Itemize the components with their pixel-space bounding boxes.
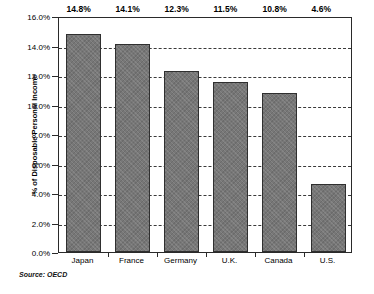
bar-item: 14.1% — [115, 16, 151, 252]
x-axis-tick-label: U.S. — [320, 256, 336, 265]
plot-area: 14.8%14.1%12.3%11.5%10.8%4.6% — [58, 17, 352, 253]
x-axis-tick-label: U.K. — [222, 256, 238, 265]
x-axis-labels: JapanFranceGermanyU.K.CanadaU.S. — [58, 256, 352, 272]
bar-item: 10.8% — [262, 16, 298, 252]
y-axis-tick-label: 6.0% — [2, 160, 50, 169]
y-axis-tick-label: 2.0% — [2, 219, 50, 228]
x-axis-tick-label: Canada — [264, 256, 292, 265]
bar-value-label: 12.3% — [165, 4, 189, 14]
y-axis-tick-label: 0.0% — [2, 249, 50, 258]
y-axis-tick-label: 4.0% — [2, 190, 50, 199]
bar-item: 11.5% — [213, 16, 249, 252]
bar: 4.6% — [311, 184, 347, 252]
bar-value-label: 4.6% — [312, 4, 331, 14]
bar: 14.1% — [115, 44, 151, 252]
bar-value-label: 14.8% — [67, 4, 91, 14]
y-axis-tick-label: 8.0% — [2, 131, 50, 140]
y-axis-tick-label: 10.0% — [2, 101, 50, 110]
bar: 14.8% — [66, 34, 102, 252]
source-note: Source: OECD — [19, 271, 67, 278]
y-axis-tick-mark — [52, 253, 58, 254]
bar: 12.3% — [164, 71, 200, 252]
bar: 11.5% — [213, 82, 249, 252]
y-axis-tick-label: 16.0% — [2, 13, 50, 22]
bar-value-label: 14.1% — [116, 4, 140, 14]
x-axis-tick-label: France — [119, 256, 144, 265]
y-axis-tick-label: 14.0% — [2, 42, 50, 51]
bar: 10.8% — [262, 93, 298, 252]
x-axis-tick-label: Germany — [164, 256, 197, 265]
bar-item: 4.6% — [311, 16, 347, 252]
bar-item: 12.3% — [164, 16, 200, 252]
bar-value-label: 10.8% — [263, 4, 287, 14]
bar-value-label: 11.5% — [214, 4, 238, 14]
bars-group: 14.8%14.1%12.3%11.5%10.8%4.6% — [59, 18, 351, 252]
x-axis-tick-label: Japan — [72, 256, 94, 265]
y-axis-tick-label: 12.0% — [2, 72, 50, 81]
bar-chart: % of Disposable Personal Income 0.0%2.0%… — [0, 0, 374, 294]
bar-item: 14.8% — [66, 16, 102, 252]
